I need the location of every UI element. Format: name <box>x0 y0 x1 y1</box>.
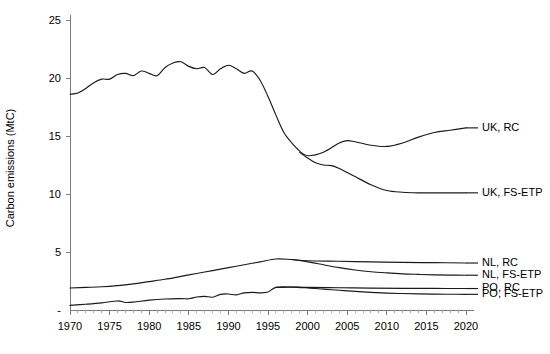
y-tick-label: 5 <box>55 246 61 258</box>
x-tick-label: 1975 <box>97 320 121 332</box>
axes-group <box>70 15 474 310</box>
series-line <box>70 259 466 288</box>
series-labels-group: UK, RCUK, FS-ETPNL, RCNL, FS-ETPPO, RCPO… <box>482 121 543 299</box>
x-tick-label: 1990 <box>216 320 240 332</box>
series-label: UK, FS-ETP <box>482 186 543 198</box>
y-axis-tick-labels: -510152025 <box>49 14 62 316</box>
x-tick-label: 2015 <box>414 320 438 332</box>
series-line <box>70 287 466 305</box>
y-axis-ticks <box>66 20 70 252</box>
y-axis-title: Carbon emissions (MtC) <box>4 109 16 228</box>
y-tick-label: 10 <box>49 188 61 200</box>
x-axis-tick-labels: 1970197519801985199019952000200520102015… <box>58 320 478 332</box>
x-axis-ticks <box>70 310 466 315</box>
series-line <box>300 152 466 193</box>
data-series-group <box>70 62 478 306</box>
series-label: NL, RC <box>482 256 518 268</box>
x-tick-label: 1970 <box>58 320 82 332</box>
series-line <box>70 62 466 156</box>
series-label: PO, FS-ETP <box>482 287 543 299</box>
series-label: UK, RC <box>482 121 519 133</box>
x-tick-label: 2020 <box>454 320 478 332</box>
x-tick-label: 2010 <box>375 320 399 332</box>
y-tick-label: - <box>57 304 61 316</box>
x-tick-label: 1980 <box>137 320 161 332</box>
x-tick-label: 2000 <box>295 320 319 332</box>
x-tick-label: 1995 <box>256 320 280 332</box>
series-label: NL, FS-ETP <box>482 268 541 280</box>
y-tick-label: 20 <box>49 72 61 84</box>
y-tick-label: 15 <box>49 130 61 142</box>
y-tick-label: 25 <box>49 14 61 26</box>
chart-container: -510152025 19701975198019851990199520002… <box>0 0 550 354</box>
x-tick-label: 1985 <box>177 320 201 332</box>
line-chart: -510152025 19701975198019851990199520002… <box>0 0 550 354</box>
x-tick-label: 2005 <box>335 320 359 332</box>
